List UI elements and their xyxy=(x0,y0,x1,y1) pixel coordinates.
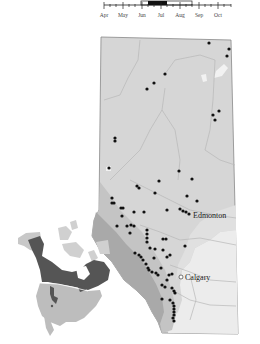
record-dot xyxy=(211,113,214,116)
record-dot xyxy=(144,262,147,265)
record-dot xyxy=(150,270,153,273)
record-dot xyxy=(172,304,175,307)
record-dot xyxy=(168,253,171,256)
record-dot xyxy=(153,191,156,194)
month-label: Aug xyxy=(175,12,185,18)
alberta-map xyxy=(92,37,238,334)
record-dot xyxy=(168,298,171,301)
record-dot xyxy=(160,297,163,300)
record-dot xyxy=(139,255,142,258)
record-dot xyxy=(142,210,145,213)
species-distribution-figure: Apr May Jun Jul Aug Sep Oct xyxy=(0,0,260,344)
city-label-edmonton: Edmonton xyxy=(193,211,226,220)
city-edmonton: Edmonton xyxy=(193,211,226,220)
record-dot xyxy=(132,224,135,227)
city-label-calgary: Calgary xyxy=(185,273,210,282)
record-dot xyxy=(225,54,228,57)
record-dot xyxy=(145,240,148,243)
record-dot xyxy=(172,313,175,316)
record-dot xyxy=(217,109,220,112)
month-label: Sep xyxy=(195,12,204,18)
record-dot xyxy=(185,194,188,197)
month-label: Apr xyxy=(100,12,109,18)
month-label: May xyxy=(118,12,128,18)
record-dot xyxy=(173,291,176,294)
record-dot xyxy=(110,196,113,199)
record-dot xyxy=(227,47,230,50)
city-marker-icon xyxy=(179,275,183,279)
record-dot xyxy=(172,310,175,313)
record-dot xyxy=(163,285,166,288)
record-dot xyxy=(113,139,116,142)
record-dot xyxy=(171,316,174,319)
record-dot xyxy=(145,87,148,90)
phenology-chart: Apr May Jun Jul Aug Sep Oct xyxy=(100,1,231,18)
record-dot xyxy=(112,201,115,204)
record-dot xyxy=(153,247,156,250)
record-dot xyxy=(121,206,124,209)
record-dot xyxy=(184,210,187,213)
record-dot xyxy=(213,118,216,121)
record-dot xyxy=(181,209,184,212)
record-dot xyxy=(187,212,190,215)
record-dot xyxy=(165,278,168,281)
record-dot xyxy=(178,207,181,210)
record-dot xyxy=(152,256,155,259)
record-dot xyxy=(163,72,166,75)
record-dot xyxy=(152,81,155,84)
record-dot xyxy=(128,231,131,234)
record-dot xyxy=(129,223,132,226)
record-dot xyxy=(170,272,173,275)
record-dot xyxy=(165,255,168,258)
record-dot xyxy=(164,237,167,240)
record-dot xyxy=(183,244,186,247)
record-dot xyxy=(195,199,198,202)
record-dot xyxy=(125,224,128,227)
record-dot xyxy=(161,237,164,240)
record-dot xyxy=(132,210,135,213)
month-label: Oct xyxy=(214,12,222,18)
record-dot xyxy=(167,273,170,276)
record-dot xyxy=(161,248,164,251)
record-dot xyxy=(147,268,150,271)
record-dot xyxy=(160,283,163,286)
record-dot xyxy=(137,186,140,189)
month-label: Jul xyxy=(158,12,165,18)
month-label: Jun xyxy=(138,12,146,18)
record-dot xyxy=(190,177,193,180)
record-dot xyxy=(157,179,160,182)
record-dot xyxy=(107,166,110,169)
record-dot xyxy=(145,236,148,239)
record-dot xyxy=(207,41,210,44)
record-dot xyxy=(141,258,144,261)
record-dot xyxy=(177,169,180,172)
record-dot xyxy=(148,246,151,249)
peak-flight-bar xyxy=(148,1,167,5)
record-dot xyxy=(165,208,168,211)
record-dot xyxy=(145,228,148,231)
record-dot xyxy=(172,319,175,322)
record-dot xyxy=(145,232,148,235)
record-dot xyxy=(172,307,175,310)
record-dot xyxy=(159,266,162,269)
record-dot xyxy=(171,301,174,304)
record-dot xyxy=(133,251,136,254)
record-dot xyxy=(115,224,118,227)
record-dot xyxy=(113,136,116,139)
record-dot xyxy=(120,214,123,217)
record-dot xyxy=(170,286,173,289)
record-dot xyxy=(156,273,159,276)
